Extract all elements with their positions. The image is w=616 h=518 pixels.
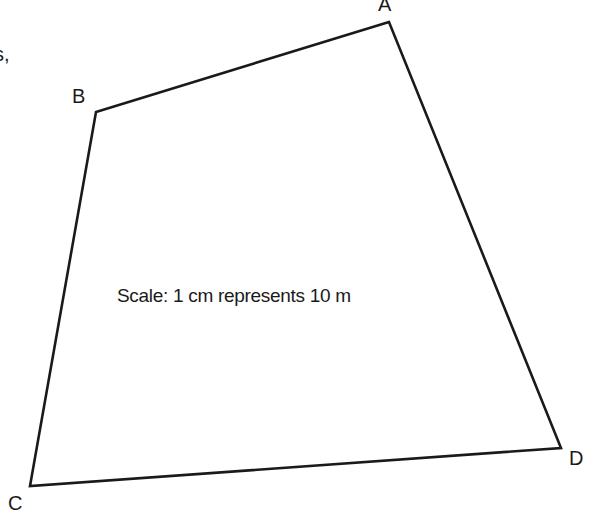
quadrilateral-abcd [30, 22, 561, 486]
vertex-label-b: B [72, 85, 85, 107]
stray-text: s, [0, 43, 10, 65]
vertex-label-d: D [569, 447, 583, 469]
scale-caption: Scale: 1 cm represents 10 m [117, 285, 351, 306]
vertex-label-a: A [378, 0, 392, 15]
quadrilateral-diagram: s, A B C D Scale: 1 cm represents 10 m [0, 0, 616, 518]
vertex-label-c: C [8, 492, 22, 514]
